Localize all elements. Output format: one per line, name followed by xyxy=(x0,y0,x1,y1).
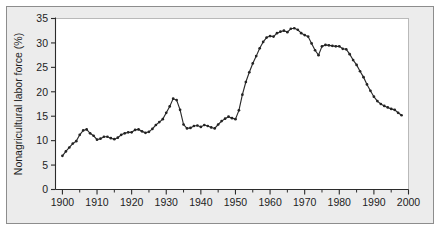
series-data-point xyxy=(355,64,358,67)
series-data-point xyxy=(300,32,303,35)
series-data-point xyxy=(213,127,216,130)
series-data-point xyxy=(283,29,286,32)
series-data-point xyxy=(328,44,331,47)
series-data-point xyxy=(65,150,68,153)
x-tick-label: 1920 xyxy=(120,196,144,208)
series-data-point xyxy=(359,70,362,73)
series-data-point xyxy=(110,137,113,140)
series-data-point xyxy=(148,131,151,134)
series-data-point xyxy=(279,30,282,33)
y-tick-label: 25 xyxy=(36,61,48,73)
x-tick-label: 1910 xyxy=(85,196,109,208)
series-data-point xyxy=(106,135,109,138)
series-data-point xyxy=(272,35,275,38)
series-data-point xyxy=(144,131,147,134)
series-data-point xyxy=(227,115,230,118)
series-data-point xyxy=(303,34,306,37)
series-data-point xyxy=(251,62,254,65)
y-axis-title: Nonagricultural labor force (%) xyxy=(12,33,24,175)
series-data-point xyxy=(331,45,334,48)
series-line xyxy=(62,28,401,156)
series-data-point xyxy=(238,109,241,112)
y-axis-title-text: Nonagricultural labor force (%) xyxy=(12,33,24,175)
data-series-group xyxy=(61,27,403,157)
series-data-point xyxy=(151,128,154,131)
series-data-point xyxy=(289,27,292,30)
x-tick-label: 1970 xyxy=(293,196,317,208)
x-tick-label: 1900 xyxy=(51,196,75,208)
y-tick-label: 30 xyxy=(36,37,48,49)
series-data-point xyxy=(321,45,324,48)
series-data-point xyxy=(61,154,64,157)
series-data-point xyxy=(293,27,296,30)
series-data-point xyxy=(373,95,376,98)
x-tick-label: 1930 xyxy=(155,196,179,208)
series-data-point xyxy=(241,93,244,96)
series-data-point xyxy=(296,28,299,31)
series-data-point xyxy=(345,48,348,51)
series-data-point xyxy=(234,118,237,121)
series-data-point xyxy=(68,146,71,149)
y-tick-label: 20 xyxy=(36,86,48,98)
series-data-point xyxy=(397,111,400,114)
x-tick-label: 1990 xyxy=(362,196,386,208)
series-data-point xyxy=(158,121,161,124)
line-chart: 0510152025303519001910192019301940195019… xyxy=(0,0,442,235)
series-data-point xyxy=(314,49,317,52)
figure-caption xyxy=(6,226,434,235)
series-data-point xyxy=(338,45,341,48)
series-data-point xyxy=(172,97,175,100)
series-data-point xyxy=(71,142,74,145)
series-data-point xyxy=(89,132,92,135)
series-data-point xyxy=(134,129,137,132)
series-data-point xyxy=(258,47,261,50)
series-data-point xyxy=(255,55,258,58)
x-tick-label: 1960 xyxy=(258,196,282,208)
series-data-point xyxy=(120,133,123,136)
y-tick-label: 10 xyxy=(36,134,48,146)
series-data-point xyxy=(103,135,106,138)
axes-group xyxy=(56,18,409,190)
series-data-point xyxy=(85,128,88,131)
series-data-point xyxy=(390,108,393,111)
series-data-point xyxy=(248,71,251,74)
series-data-point xyxy=(383,105,386,108)
y-tick-label: 35 xyxy=(36,12,48,24)
series-data-point xyxy=(210,126,213,129)
series-data-point xyxy=(362,76,365,79)
series-data-point xyxy=(99,137,102,140)
series-data-point xyxy=(286,31,289,34)
series-data-point xyxy=(224,117,227,120)
tick-marks-group xyxy=(51,19,409,195)
series-data-point xyxy=(341,47,344,50)
series-data-point xyxy=(113,138,116,141)
series-data-point xyxy=(196,124,199,127)
figure-container: 0510152025303519001910192019301940195019… xyxy=(0,0,442,235)
y-tick-label: 15 xyxy=(36,110,48,122)
series-data-point xyxy=(127,131,130,134)
series-data-point xyxy=(276,32,279,35)
series-data-point xyxy=(82,129,85,132)
series-data-point xyxy=(116,136,119,139)
series-data-point xyxy=(334,45,337,48)
x-tick-label: 1950 xyxy=(224,196,248,208)
x-tick-label: 2000 xyxy=(397,196,421,208)
series-data-point xyxy=(324,44,327,47)
series-data-point xyxy=(200,126,203,129)
series-data-point xyxy=(78,133,81,136)
series-data-point xyxy=(179,109,182,112)
series-data-point xyxy=(317,54,320,57)
series-data-point xyxy=(265,36,268,39)
series-data-point xyxy=(386,106,389,109)
series-data-point xyxy=(217,123,220,126)
series-data-point xyxy=(307,35,310,38)
series-data-point xyxy=(231,117,234,120)
series-data-point xyxy=(123,132,126,135)
series-data-point xyxy=(189,127,192,130)
x-tick-label: 1980 xyxy=(328,196,352,208)
series-data-point xyxy=(175,99,178,102)
series-data-point xyxy=(206,125,209,128)
series-data-point xyxy=(310,42,313,45)
series-data-point xyxy=(155,124,158,127)
series-data-point xyxy=(352,59,355,62)
